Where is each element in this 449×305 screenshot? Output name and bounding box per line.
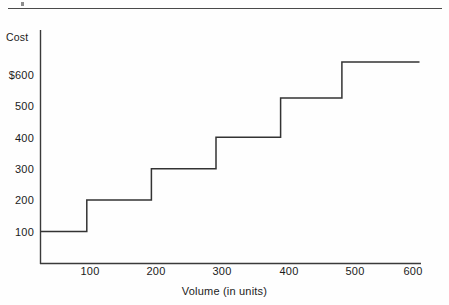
step-series-line (41, 62, 420, 232)
chart-page: Cost Volume (in units) $600 500 400 300 … (0, 0, 449, 305)
step-chart-plot (0, 0, 449, 305)
